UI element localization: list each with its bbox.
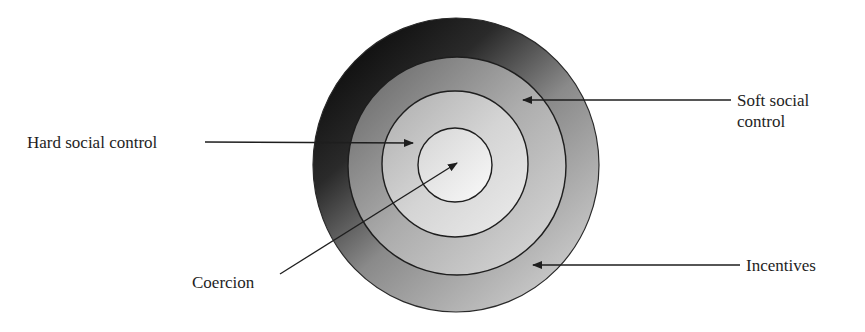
label-coercion: Coercion xyxy=(192,272,254,293)
label-soft-line2: control xyxy=(737,111,847,132)
label-soft-line1: Soft social xyxy=(737,90,847,111)
social-control-diagram xyxy=(0,0,865,332)
label-incentives: Incentives xyxy=(746,255,816,276)
label-soft-social-control: Soft social control xyxy=(737,90,847,132)
label-hard-social-control: Hard social control xyxy=(27,132,157,153)
